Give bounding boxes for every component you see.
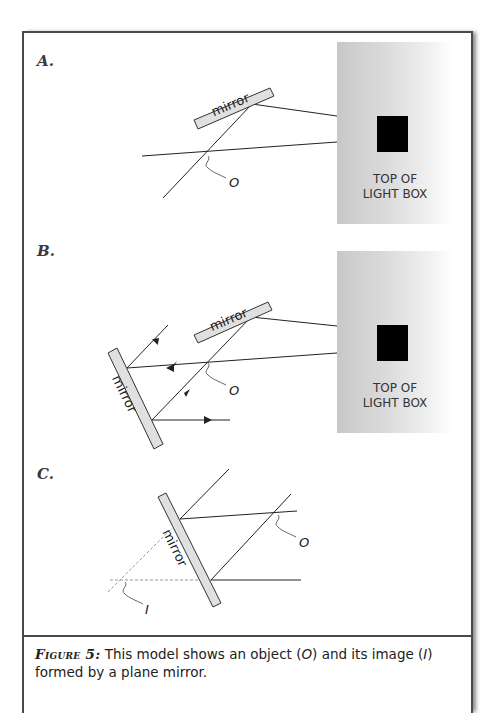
svg-text:O: O [229, 383, 239, 398]
svg-text:O: O [299, 535, 309, 550]
svg-text:I: I [145, 602, 149, 617]
panel-a-diagram: mirror O [142, 88, 337, 198]
figure-tag: Figure 5: [35, 646, 100, 662]
figure-caption: Figure 5: This model shows an object (O)… [35, 645, 475, 681]
panel-b-diagram: mirror mirror O [108, 302, 337, 449]
panel-c-diagram: mirror O I [108, 469, 309, 617]
svg-text:O: O [229, 175, 239, 190]
caption-divider [22, 635, 471, 637]
